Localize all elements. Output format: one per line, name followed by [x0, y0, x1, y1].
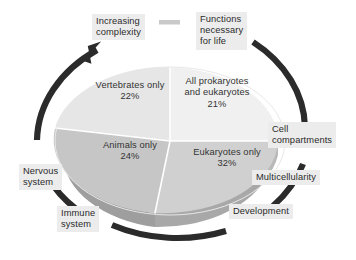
- annotation-functions-necessary-for-life: Functions necessary for life: [196, 12, 247, 50]
- annotation-increasing-complexity: Increasing complexity: [92, 14, 145, 40]
- annotation-nervous-system: Nervous system: [19, 164, 62, 190]
- figure-canvas: All prokaryotes and eukaryotes 21% Verte…: [0, 0, 356, 260]
- arrow-arc-bottom: [112, 225, 226, 238]
- slice-label-eukaryotes: Eukaryotes only 32%: [177, 147, 277, 170]
- leader-dash-icon: [159, 20, 180, 25]
- annotation-cell-compartments: Cell compartments: [268, 122, 336, 148]
- slice-label-vertebrates: Vertebrates only 22%: [82, 80, 178, 103]
- annotation-multicellularity: Multicellularity: [252, 170, 320, 185]
- slice-label-prokaryotes: All prokaryotes and eukaryotes 21%: [165, 76, 269, 110]
- annotation-immune-system: Immune system: [57, 206, 99, 232]
- slice-label-animals: Animals only 24%: [84, 140, 176, 163]
- annotation-development: Development: [229, 204, 293, 219]
